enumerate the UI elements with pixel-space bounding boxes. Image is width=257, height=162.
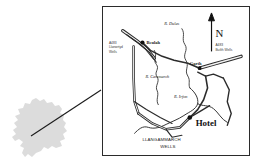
road-label-a483-builth-dest1: Builth Wells xyxy=(215,48,232,52)
map-canvas: N R. Dulas R. Cammarch R. Irfon Beulah G… xyxy=(103,7,249,155)
road-network xyxy=(123,31,241,138)
place-label-beulah: Beulah xyxy=(146,40,160,45)
river-label-cammarch: R. Cammarch xyxy=(144,74,169,79)
map-frame: N R. Dulas R. Cammarch R. Irfon Beulah G… xyxy=(102,6,250,156)
river-label-irfon: R. Irfon xyxy=(173,94,187,99)
compass-north-label: N xyxy=(215,27,223,39)
road-label-a483-llanwrtyd-dest1: Llanwrtyd xyxy=(109,45,123,49)
town-label-line1: LLANGAMMARCH xyxy=(142,137,180,142)
town-label-line2: WELLS xyxy=(160,144,175,149)
river-label-dulas: R. Dulas xyxy=(163,21,179,26)
marker-hotel xyxy=(188,115,193,120)
wales-outline-inset xyxy=(6,96,78,162)
figure-root: N R. Dulas R. Cammarch R. Irfon Beulah G… xyxy=(0,0,257,162)
river-dulas xyxy=(182,29,190,88)
road-label-a483-builth-number: A483 xyxy=(215,43,223,47)
place-label-hotel: Hotel xyxy=(196,118,217,128)
north-arrow-icon xyxy=(209,13,215,51)
road-label-a483-llanwrtyd-number: A483 xyxy=(109,41,117,45)
road-label-a483-llanwrtyd-dest2: Wells xyxy=(109,50,117,54)
road-garth-south xyxy=(190,76,208,117)
marker-beulah xyxy=(140,40,144,44)
wales-outline-icon xyxy=(12,98,67,157)
marker-garth xyxy=(198,66,202,70)
place-label-garth: Garth xyxy=(190,61,202,66)
